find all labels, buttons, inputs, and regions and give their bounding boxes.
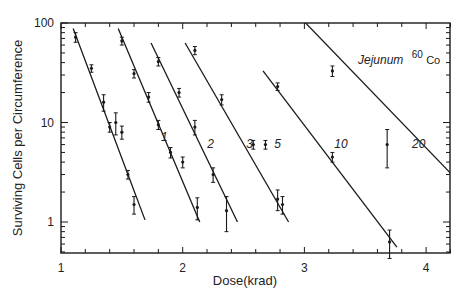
data-point	[276, 197, 279, 200]
x-tick-label: 3	[301, 261, 308, 275]
series-label-2: 2	[206, 137, 214, 151]
series-label-3: 3	[246, 137, 253, 151]
data-point	[276, 85, 279, 88]
data-point	[169, 151, 172, 154]
data-point	[264, 143, 267, 146]
data-point	[108, 125, 111, 128]
series-labels: 12351020	[161, 130, 426, 151]
data-point	[225, 209, 228, 212]
data-point	[196, 206, 199, 209]
data-point	[177, 91, 180, 94]
annotation-text: Jejunum	[357, 53, 403, 67]
data-point	[193, 49, 196, 52]
x-axis-label: Dose(krad)	[213, 273, 277, 288]
y-tick-label: 10	[41, 116, 55, 130]
data-point	[74, 36, 77, 39]
y-tick-label: 100	[34, 16, 54, 30]
data-point	[102, 101, 105, 104]
data-point	[157, 60, 160, 63]
chart-container: 1234 110100 12351020 Dose(krad) Survivin…	[0, 0, 467, 298]
x-tick-label: 1	[58, 261, 65, 275]
data-point	[212, 173, 215, 176]
data-point	[220, 98, 223, 101]
series-label-20: 20	[411, 137, 426, 151]
fit-line-5	[185, 43, 288, 222]
data-point	[331, 69, 334, 72]
data-point	[114, 121, 117, 124]
fit-line-1	[73, 29, 145, 220]
data-point	[386, 143, 389, 146]
y-tick-label: 1	[47, 215, 54, 229]
data-point	[147, 96, 150, 99]
y-axis-label: Surviving Cells per Circumference	[10, 40, 25, 237]
data-point	[120, 131, 123, 134]
data-point	[132, 72, 135, 75]
data-point	[120, 39, 123, 42]
series-label-1: 1	[161, 130, 168, 144]
data-point	[388, 240, 391, 243]
survival-curve-plot: 1234 110100 12351020 Dose(krad) Survivin…	[0, 0, 467, 298]
data-point	[181, 160, 184, 163]
data-point	[281, 203, 284, 206]
data-point	[193, 125, 196, 128]
series-label-5: 5	[274, 137, 281, 151]
jejunum-annotation: Jejunum 60 Co	[357, 47, 440, 67]
data-point	[132, 203, 135, 206]
fit-line-20	[304, 22, 450, 173]
x-tick-label: 2	[179, 261, 186, 275]
x-tick-label: 4	[423, 261, 430, 275]
data-point	[126, 173, 129, 176]
data-point	[90, 67, 93, 70]
data-point	[331, 155, 334, 158]
data-point	[157, 123, 160, 126]
series-label-10: 10	[334, 137, 348, 151]
annotation-superscript: 60	[412, 49, 424, 60]
annotation-suffix: Co	[426, 54, 440, 66]
